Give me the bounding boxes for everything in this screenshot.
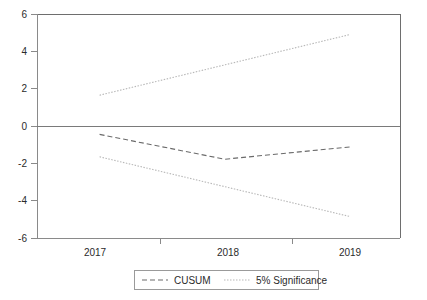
x-tick-label-2018: 2018 [217, 247, 240, 258]
cusum-stability-chart: 6 4 2 0 -2 -4 -6 2017 2018 2019 [0, 0, 427, 300]
x-tick-label-2019: 2019 [339, 247, 362, 258]
chart-legend: CUSUM 5% Significance [134, 270, 328, 289]
y-tick-label-2: 2 [21, 83, 27, 94]
x-tick-label-2017: 2017 [84, 247, 107, 258]
series-significance-lower [100, 157, 350, 217]
x-axis: 2017 2018 2019 [84, 238, 362, 258]
series-cusum [100, 134, 350, 159]
series-significance-upper [100, 35, 350, 96]
legend-label-significance: 5% Significance [256, 275, 328, 286]
y-axis: 6 4 2 0 -2 -4 -6 [18, 9, 37, 244]
y-tick-label-neg4: -4 [18, 195, 27, 206]
y-tick-label-4: 4 [21, 46, 27, 57]
y-tick-label-6: 6 [21, 9, 27, 20]
y-tick-label-neg6: -6 [18, 233, 27, 244]
y-tick-label-neg2: -2 [18, 158, 27, 169]
y-tick-label-0: 0 [21, 121, 27, 132]
legend-label-cusum: CUSUM [174, 275, 211, 286]
chart-canvas: 6 4 2 0 -2 -4 -6 2017 2018 2019 [0, 0, 427, 300]
